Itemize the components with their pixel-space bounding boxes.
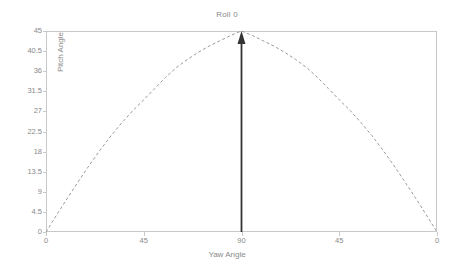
x-tick-label: 90: [222, 236, 262, 245]
y-tick-label: 4.5: [10, 208, 42, 216]
y-tick-label: 9: [10, 188, 42, 196]
curve-layer: [46, 31, 437, 232]
y-tick-label: 0: [10, 228, 42, 236]
x-tick-mark: [46, 232, 47, 236]
chart-figure: Roll 0 04.5913.51822.52731.53640.545 045…: [0, 0, 454, 275]
y-tick-label: 45: [10, 27, 42, 35]
x-tick-label: 45: [124, 236, 164, 245]
y-tick-label: 31.5: [10, 87, 42, 95]
x-tick-label: 0: [417, 236, 454, 245]
chart-title: Roll 0: [0, 10, 454, 19]
x-tick-mark: [437, 232, 438, 236]
y-tick-label: 18: [10, 148, 42, 156]
arrow-head-icon: [238, 31, 246, 44]
x-tick-label: 45: [319, 236, 359, 245]
y-tick-label: 27: [10, 107, 42, 115]
x-axis-label: Yaw Angle: [0, 250, 454, 259]
x-tick-mark: [339, 232, 340, 236]
y-tick-label: 22.5: [10, 128, 42, 136]
y-tick-label: 36: [10, 67, 42, 75]
peak-arrow-annotation: [238, 31, 246, 232]
y-tick-label: 13.5: [10, 168, 42, 176]
x-tick-mark: [144, 232, 145, 236]
x-tick-mark: [242, 232, 243, 236]
y-tick-label: 40.5: [10, 47, 42, 55]
x-tick-label: 0: [26, 236, 66, 245]
